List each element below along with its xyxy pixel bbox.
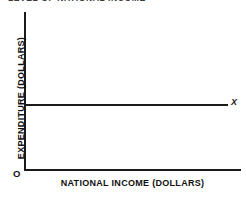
x-axis-label: NATIONAL INCOME (DOLLARS) bbox=[24, 178, 241, 188]
y-axis-label: EXPENDITURE (DOLLARS) bbox=[16, 33, 26, 163]
expenditure-line bbox=[24, 104, 228, 106]
series-label-x: X bbox=[231, 98, 237, 107]
figure-title: LEVEL OF NATIONAL INCOME bbox=[8, 0, 146, 3]
x-axis bbox=[24, 169, 241, 171]
economics-figure: LEVEL OF NATIONAL INCOME X EXPENDITURE (… bbox=[0, 0, 246, 199]
origin-label: O bbox=[13, 169, 20, 179]
